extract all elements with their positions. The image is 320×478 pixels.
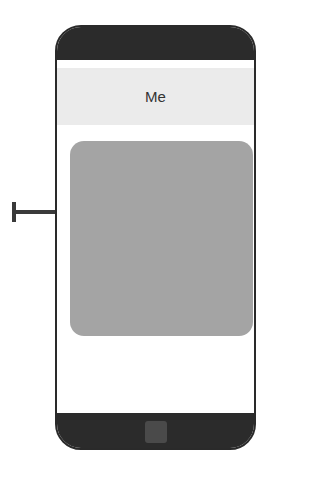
page-title: Me <box>145 88 166 105</box>
page-header: Me <box>57 68 254 125</box>
phone-device: Me <box>55 25 256 450</box>
status-bar <box>57 27 254 60</box>
home-button[interactable] <box>145 421 167 443</box>
bottom-bar <box>57 413 254 448</box>
content-placeholder[interactable] <box>70 141 253 336</box>
